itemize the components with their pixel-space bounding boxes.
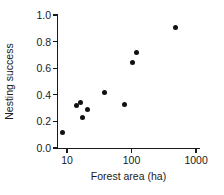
x-tick-mark — [131, 148, 132, 153]
x-axis-title: Forest area (ha) — [57, 170, 200, 182]
y-tick-label: 1.0 — [36, 10, 51, 21]
y-tick-label: 0.4 — [36, 90, 51, 101]
x-tick-mark — [66, 148, 67, 153]
y-tick-label: 0.8 — [36, 36, 51, 47]
x-tick-mark — [195, 148, 196, 153]
y-tick-label: 0.6 — [36, 63, 51, 74]
y-tick-mark — [53, 68, 58, 69]
data-point — [122, 102, 127, 107]
data-point — [85, 107, 90, 112]
y-axis-title: Nesting success — [2, 15, 16, 148]
x-tick-label: 100 — [123, 155, 141, 166]
x-tick-label: 1000 — [184, 155, 207, 166]
y-tick-label: 0.0 — [36, 143, 51, 154]
y-tick-mark — [53, 147, 58, 148]
data-point — [78, 100, 83, 105]
y-tick-mark — [53, 94, 58, 95]
data-point — [102, 90, 107, 95]
y-tick-mark — [53, 41, 58, 42]
data-point — [80, 115, 85, 120]
y-axis-line — [57, 15, 58, 148]
data-point — [173, 25, 178, 30]
x-axis-line — [57, 148, 200, 149]
scatter-plot-figure: Nesting success Forest area (ha) 0.00.20… — [0, 0, 224, 195]
data-point — [134, 50, 139, 55]
y-tick-mark — [53, 121, 58, 122]
data-point — [130, 60, 135, 65]
y-tick-label: 0.2 — [36, 116, 51, 127]
data-point — [60, 130, 65, 135]
plot-area: 0.00.20.40.60.81.0 101001000 — [57, 15, 200, 148]
x-tick-label: 10 — [61, 155, 73, 166]
y-tick-mark — [53, 14, 58, 15]
